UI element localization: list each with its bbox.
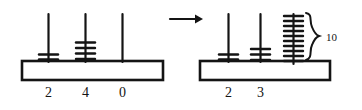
- abacus-carry-diagram: 2 4 0: [0, 0, 362, 110]
- curly-brace-icon: [306, 13, 319, 60]
- left-rod-2-label: 4: [82, 85, 89, 100]
- brace-label: 10: [326, 31, 338, 43]
- left-abacus-base: [22, 61, 163, 80]
- arrow-head: [195, 15, 203, 24]
- diagram-canvas: 2 4 0: [0, 0, 362, 110]
- right-abacus-base: [200, 61, 330, 80]
- left-rod-1-label: 2: [45, 85, 52, 100]
- right-rod-2-label: 3: [257, 85, 264, 100]
- right-rod-1-label: 2: [225, 85, 232, 100]
- right-abacus: 10 2 3: [200, 13, 338, 100]
- right-arrow-icon: [170, 15, 203, 24]
- left-rod-3-label: 0: [119, 85, 126, 100]
- brace-count: 10: [306, 13, 338, 60]
- right-rod-3: [284, 14, 303, 64]
- left-rod-1: [39, 14, 58, 62]
- left-abacus: 2 4 0: [22, 14, 163, 100]
- right-rod-1: [219, 14, 238, 62]
- right-rod-2: [251, 14, 270, 62]
- left-rod-2: [76, 14, 95, 62]
